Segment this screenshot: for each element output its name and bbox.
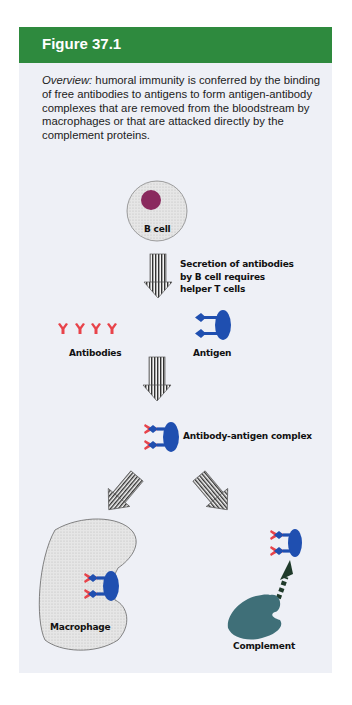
antibodies-label: Antibodies [69, 348, 121, 358]
complement-label: Complement [233, 641, 295, 651]
antibodies-icon [58, 323, 117, 334]
secretion-note-line: helper T cells [180, 283, 294, 296]
down-arrow-icon [144, 254, 172, 298]
complement-protein-icon [228, 595, 282, 640]
antigen-label: Antigen [193, 348, 231, 358]
secretion-note-line: by B cell requires [180, 271, 294, 284]
complex-label: Antibody-antigen complex [183, 431, 312, 441]
arrow-to-complement-icon [188, 467, 238, 519]
macrophage-label: Macrophage [50, 622, 110, 632]
complement-target-complex [270, 529, 302, 557]
antibody-antigen-complex-icon [144, 422, 179, 452]
down-arrow-icon [143, 357, 171, 401]
b-cell-label: B cell [144, 224, 170, 234]
secretion-note-line: Secretion of antibodies [180, 258, 294, 271]
antigen-icon [195, 310, 231, 340]
b-cell-nucleus [141, 190, 161, 210]
arrow-to-macrophage-icon [98, 467, 148, 519]
secretion-note: Secretion of antibodies by B cell requir… [180, 258, 294, 296]
immunity-diagram [0, 0, 352, 705]
